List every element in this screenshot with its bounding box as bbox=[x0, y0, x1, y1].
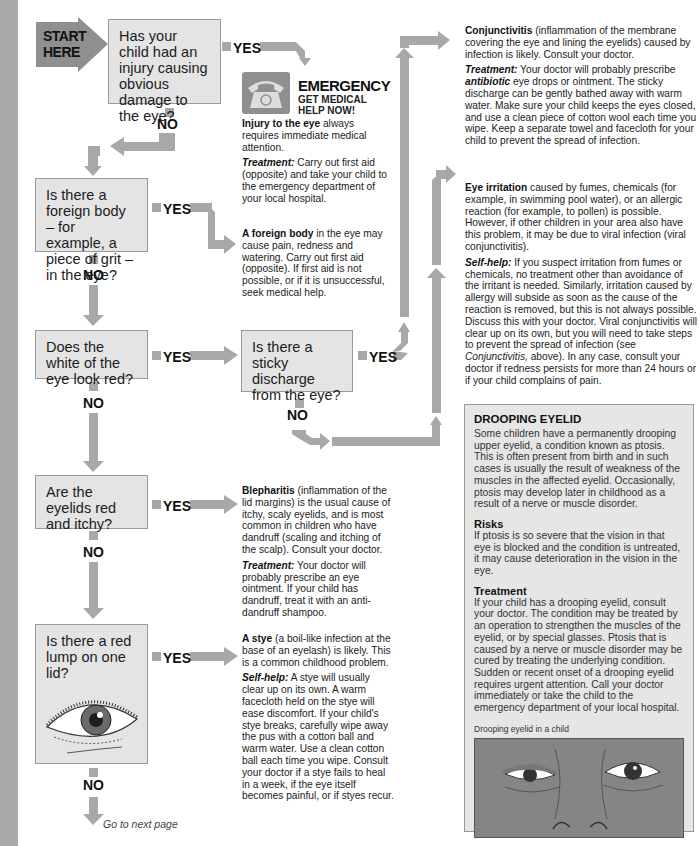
child-face-illustration bbox=[474, 738, 684, 838]
question-injury: Has your child had an injury causing obv… bbox=[108, 19, 221, 104]
yes-label-white-red: YES bbox=[163, 349, 191, 365]
no-label-eyelids: NO bbox=[83, 544, 104, 560]
eye-irritation-text: Eye irritation caused by fumes, chemical… bbox=[465, 182, 697, 391]
no-label-lump: NO bbox=[83, 777, 104, 793]
question-foreign-body: Is there a foreign body – for example, a… bbox=[35, 178, 148, 252]
go-to-next-page[interactable]: Go to next page bbox=[103, 818, 178, 830]
yes-label-lump: YES bbox=[163, 650, 191, 666]
question-eyelids-itchy: Are the eyelids red and itchy? bbox=[35, 475, 148, 529]
yes-label-eyelids: YES bbox=[163, 498, 191, 514]
emergency-text: Injury to the eye always requires immedi… bbox=[242, 118, 390, 209]
question-white-red: Does the white of the eye look red? bbox=[35, 330, 148, 379]
treatment-text: If your child has a drooping eyelid, con… bbox=[474, 597, 684, 714]
yes-label-sticky: YES bbox=[369, 349, 397, 365]
photo-caption: Drooping eyelid in a child bbox=[474, 724, 684, 734]
telephone-icon bbox=[242, 72, 290, 114]
drooping-eyelid-panel: DROOPING EYELID Some children have a per… bbox=[464, 404, 694, 832]
treatment-heading: Treatment bbox=[474, 585, 684, 597]
no-label-injury: NO bbox=[157, 116, 178, 132]
question-sticky-discharge: Is there a sticky discharge from the eye… bbox=[241, 330, 353, 392]
foreign-body-text: A foreign body in the eye may cause pain… bbox=[242, 228, 392, 303]
no-label-white-red: NO bbox=[83, 395, 104, 411]
conjunctivitis-text: Conjunctivitis (inflammation of the memb… bbox=[465, 25, 697, 151]
risks-heading: Risks bbox=[474, 518, 684, 530]
drooping-eyelid-face-icon bbox=[475, 739, 684, 838]
stye-text: A stye (a boil-like infection at the bas… bbox=[242, 633, 394, 806]
drooping-intro: Some children have a permanently droopin… bbox=[474, 428, 684, 510]
emergency-title: EMERGENCY bbox=[298, 77, 390, 94]
no-label-foreign: NO bbox=[83, 267, 104, 283]
blepharitis-text: Blepharitis (inflammation of the lid mar… bbox=[242, 485, 392, 623]
risks-text: If ptosis is so severe that the vision i… bbox=[474, 530, 684, 577]
drooping-eyelid-title: DROOPING EYELID bbox=[474, 413, 684, 425]
emergency-subtitle: GET MEDICALHELP NOW! bbox=[298, 94, 367, 116]
eye-illustration-icon bbox=[42, 687, 142, 757]
yes-label-injury: YES bbox=[233, 40, 261, 56]
no-label-sticky: NO bbox=[287, 407, 308, 423]
yes-label-foreign: YES bbox=[163, 201, 191, 217]
question-red-lump: Is there a red lump on one lid? bbox=[35, 624, 148, 764]
